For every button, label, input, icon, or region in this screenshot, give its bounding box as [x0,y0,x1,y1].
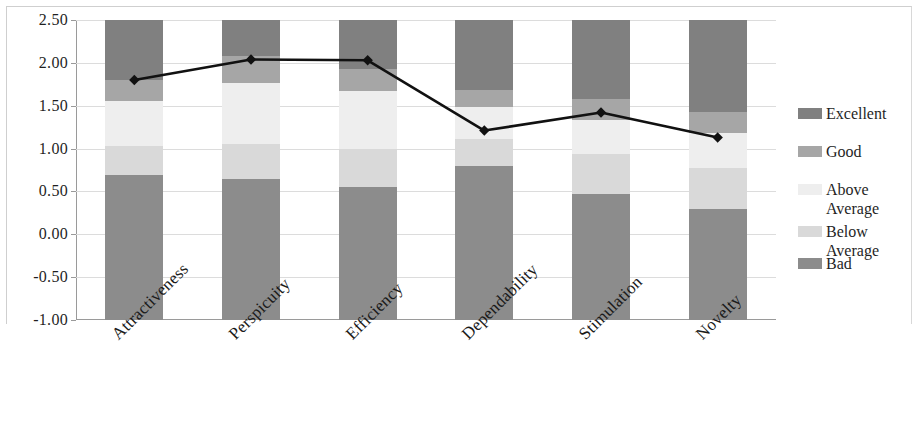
legend-item: Bad [798,254,852,273]
y-axis-tick-label: -1.00 [6,312,68,328]
data-point-marker [129,75,139,85]
y-axis-tick-label: 0.50 [6,183,68,199]
legend-swatch-icon [798,108,822,119]
legend-item: Excellent [798,104,886,123]
measured-line [134,59,717,137]
y-axis-tick-label: 1.00 [6,141,68,157]
y-axis-tick-label: 2.00 [6,55,68,71]
data-point-marker [596,107,606,117]
y-axis-tick-labels: 2.502.001.501.000.500.00-0.50-1.00 [0,20,68,320]
data-point-marker [246,54,256,64]
legend-label: Above Average [826,180,879,218]
legend-swatch-icon [798,226,822,237]
legend-item: Above Average [798,180,879,218]
legend-item: Good [798,142,862,161]
ueq-benchmark-chart: 2.502.001.501.000.500.00-0.50-1.00 Attra… [0,0,922,445]
y-axis-tick-mark [71,320,76,321]
legend-label: Bad [826,254,852,273]
legend-label: Good [826,142,862,161]
y-axis-tick-label: 2.50 [6,12,68,28]
y-axis-tick-label: 1.50 [6,98,68,114]
legend-swatch-icon [798,184,822,195]
data-point-marker [712,132,722,142]
y-axis-tick-label: -0.50 [6,269,68,285]
legend-swatch-icon [798,146,822,157]
x-axis-category-labels: AttractivenessPerspicuityEfficiencyDepen… [76,322,776,442]
y-axis-tick-label: 0.00 [6,226,68,242]
legend-label: Excellent [826,104,886,123]
legend-swatch-icon [798,258,822,269]
